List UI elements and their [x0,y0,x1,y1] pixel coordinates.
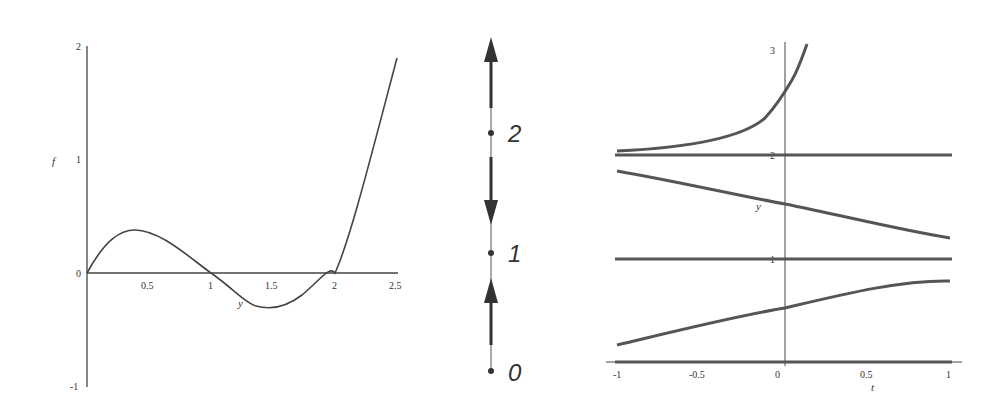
right-xtick-neg0.5: -0.5 [689,369,705,380]
right-ytick-3: 3 [770,45,775,56]
right-plot: 3 2 1 y -1 -0.5 0 0.5 1 t [606,42,962,393]
equilibrium-label-2: 2 [507,120,521,147]
equilibrium-label-0: 0 [508,359,522,386]
solution-curve-lower [617,281,950,345]
figure-canvas: 2 1 0 -1 f y 0.5 1 1.5 2 2.5 2 1 0 3 2 1… [0,0,1000,419]
equilibrium-point-2 [488,130,494,136]
arrow-down-icon [484,200,498,225]
right-xtick-0: 0 [775,369,780,380]
cubic-curve [87,58,397,308]
right-xlabel: t [871,381,875,393]
left-ytick-0: 0 [76,268,81,279]
left-ylabel: f [52,155,57,167]
solution-curves [615,44,952,362]
arrow-up-icon [484,278,498,303]
left-xlabel: y [237,297,243,309]
left-xtick-1.5: 1.5 [265,280,278,291]
equilibrium-point-1 [488,250,494,256]
equilibrium-point-0 [488,368,494,374]
right-xtick-0.5: 0.5 [860,369,873,380]
left-xtick-2.5: 2.5 [389,280,402,291]
right-ylabel: y [755,200,761,212]
left-xtick-2: 2 [332,280,337,291]
solution-curve-middle [617,171,950,238]
right-xtick-1: 1 [946,369,951,380]
left-xtick-1: 1 [208,280,213,291]
left-ytick-1: 1 [76,154,81,165]
left-ytick-2: 2 [76,41,81,52]
solution-curve-upper [617,44,807,151]
equilibrium-label-1: 1 [508,240,521,267]
left-xtick-0.5: 0.5 [141,280,154,291]
arrow-up-icon [484,37,498,62]
right-xtick-neg1: -1 [613,369,621,380]
left-plot: 2 1 0 -1 f y 0.5 1 1.5 2 2.5 [52,41,402,392]
phase-line: 2 1 0 [484,37,522,386]
left-ytick-neg1: -1 [70,381,78,392]
